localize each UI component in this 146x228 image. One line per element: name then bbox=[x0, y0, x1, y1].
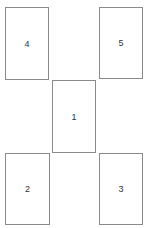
box-5: 5 bbox=[99, 7, 143, 79]
box-1-label: 1 bbox=[71, 112, 76, 122]
box-5-label: 5 bbox=[118, 38, 123, 48]
box-1: 1 bbox=[52, 80, 96, 153]
box-3: 3 bbox=[99, 153, 143, 225]
box-4: 4 bbox=[5, 7, 49, 80]
box-3-label: 3 bbox=[118, 184, 123, 194]
box-2: 2 bbox=[5, 153, 50, 225]
box-4-label: 4 bbox=[24, 39, 29, 49]
box-2-label: 2 bbox=[25, 184, 30, 194]
